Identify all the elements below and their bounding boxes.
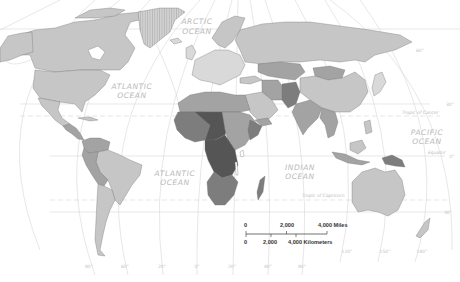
ocean-label-north-atlantic-2: OCEAN — [117, 91, 147, 100]
country-borneo — [350, 140, 366, 154]
ocean-label-pacific-2: OCEAN — [412, 137, 442, 146]
lon-label: 0° — [194, 264, 199, 269]
lon-label: 60° — [121, 264, 129, 269]
region-north-africa — [178, 92, 250, 112]
ocean-label-indian: INDIAN — [285, 163, 315, 172]
lon-label: 80° — [298, 264, 306, 269]
lat-label: 30° — [444, 210, 452, 215]
lon-label: 20° — [228, 264, 236, 269]
lon-label: 20° — [158, 264, 166, 269]
ocean-label-arctic-2: OCEAN — [182, 27, 212, 36]
country-philippines — [364, 120, 372, 134]
scale-miles-2000: 2,000 — [280, 222, 294, 228]
ocean-label-south-atlantic-2: OCEAN — [160, 178, 190, 187]
country-russia — [235, 22, 412, 64]
country-uk — [186, 45, 196, 60]
label-equator: Equator — [428, 150, 447, 155]
scale-miles-0: 0 — [244, 222, 247, 228]
country-india — [292, 100, 322, 135]
scale-km-0: 0 — [244, 239, 247, 245]
country-indonesia — [332, 152, 370, 165]
scale-miles-4000: 4,000 Miles — [318, 222, 348, 228]
world-map: ARCTIC OCEAN ATLANTIC OCEAN ATLANTIC OCE… — [0, 0, 460, 282]
region-southeast-asia — [320, 108, 338, 138]
ocean-label-north-atlantic: ATLANTIC — [111, 82, 153, 91]
meridian — [0, 0, 60, 30]
ocean-label-arctic: ARCTIC — [180, 17, 212, 26]
ocean-label-south-atlantic: ATLANTIC — [154, 169, 196, 178]
country-kazakhstan — [258, 62, 305, 80]
country-alaska-usa — [0, 32, 33, 62]
lon-label: 120° — [342, 249, 353, 254]
lon-label: 180° — [417, 249, 428, 254]
longitude-labels: 80° 60° 20° 0° 20° 40° 80° 120° 150° 180… — [85, 249, 427, 269]
scale-km-4000: 4,000 Kilometers — [288, 239, 332, 245]
country-turkey — [240, 76, 262, 84]
caribbean — [78, 117, 98, 121]
lat-label: 0° — [449, 154, 454, 159]
country-new-zealand — [416, 218, 430, 238]
scale-km-2000: 2,000 — [263, 239, 277, 245]
lon-label: 150° — [380, 249, 391, 254]
lon-label: 80° — [85, 264, 93, 269]
ocean-label-pacific: PACIFIC — [411, 128, 444, 137]
lat-label: 30° — [446, 102, 454, 107]
lon-label: 40° — [264, 264, 272, 269]
ocean-label-indian-2: OCEAN — [285, 172, 315, 181]
country-iceland — [170, 38, 182, 44]
country-argentina-chile — [95, 184, 115, 256]
country-japan — [372, 72, 386, 96]
label-tropic-of-capricorn: Tropic of Capricorn — [302, 193, 345, 198]
lat-label: 60° — [416, 48, 424, 53]
landmasses — [0, 8, 430, 256]
country-madagascar — [257, 176, 265, 200]
label-tropic-of-cancer: Tropic of Cancer — [402, 110, 440, 115]
country-australia — [352, 168, 405, 216]
scale-bar: 0 2,000 4,000 Miles 0 2,000 4,000 Kilome… — [244, 222, 348, 245]
region-western-europe — [192, 50, 245, 85]
